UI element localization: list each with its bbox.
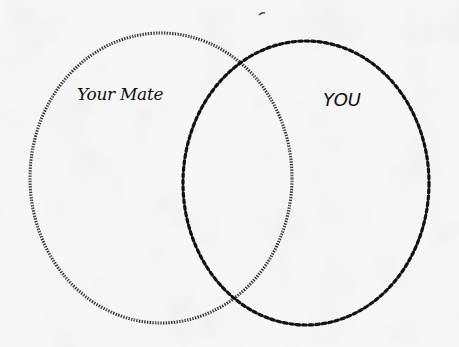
you-label: YOU [323, 89, 361, 110]
your-mate-label: Your Mate [77, 84, 163, 104]
venn-diagram [0, 0, 459, 347]
